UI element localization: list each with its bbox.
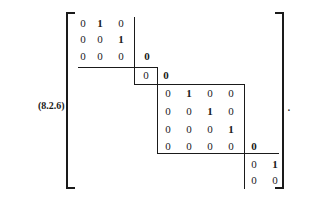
matrix-entry: 0 [225, 140, 237, 152]
matrix-entry: 0 [162, 140, 174, 152]
matrix-entry: 0 [140, 69, 152, 81]
matrix-entry: 0 [162, 87, 174, 99]
block-divider [134, 84, 245, 85]
matrix-entry: 0 [204, 123, 216, 135]
block-divider [78, 67, 158, 68]
matrix-entry: 0 [162, 123, 174, 135]
matrix-entry: 0 [183, 123, 195, 135]
matrix-entry: 0 [77, 17, 89, 29]
block-divider [134, 17, 135, 85]
matrix-entry: 0 [269, 174, 281, 186]
superdiagonal-zero: 0 [141, 50, 153, 62]
matrix-entry: 1 [183, 87, 195, 99]
matrix-entry: 1 [225, 123, 237, 135]
matrix-entry: 0 [115, 17, 127, 29]
matrix-entry: 0 [248, 174, 260, 186]
matrix-entry: 0 [77, 50, 89, 62]
matrix-entry: 0 [204, 87, 216, 99]
superdiagonal-zero: 0 [160, 69, 172, 81]
matrix-entry: 0 [162, 105, 174, 117]
matrix-entry: 0 [115, 50, 127, 62]
terminator-period: . [287, 100, 291, 114]
matrix-entry: 0 [77, 33, 89, 45]
matrix-entry: 1 [115, 33, 127, 45]
matrix-entry: 0 [204, 140, 216, 152]
block-divider [157, 67, 158, 154]
block-divider [244, 84, 245, 189]
matrix-entry: 0 [225, 105, 237, 117]
matrix-entry: 0 [94, 50, 106, 62]
matrix-entry: 0 [183, 105, 195, 117]
matrix-entry: 0 [225, 87, 237, 99]
matrix-entry: 1 [204, 105, 216, 117]
matrix-entry: 0 [94, 33, 106, 45]
matrix-entry: 0 [248, 158, 260, 170]
equation-number: (8.2.6) [38, 100, 65, 111]
block-divider [157, 153, 279, 154]
matrix-entry: 0 [183, 140, 195, 152]
superdiagonal-zero: 0 [248, 140, 260, 152]
matrix-entry: 1 [94, 17, 106, 29]
matrix-entry: 1 [269, 158, 281, 170]
